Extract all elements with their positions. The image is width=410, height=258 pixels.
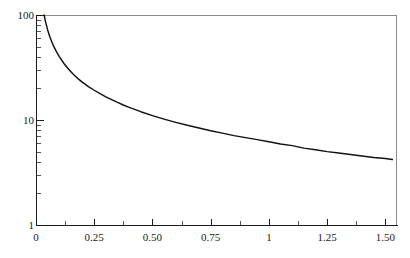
y-tick-label: 100 — [18, 10, 35, 21]
curve-layer — [0, 0, 410, 258]
data-curve — [44, 15, 392, 160]
x-tick-label: 1 — [266, 232, 272, 243]
x-tick-label: 0.50 — [143, 232, 162, 243]
x-tick-label: 0.25 — [85, 232, 104, 243]
chart-figure: 10010100.250.500.7511.251.50 — [0, 0, 410, 258]
x-tick-label: 0.75 — [201, 232, 220, 243]
x-tick-label: 1.50 — [376, 232, 395, 243]
x-tick-label: 1.25 — [318, 232, 337, 243]
x-tick-label: 0 — [33, 232, 39, 243]
y-tick-label: 10 — [23, 115, 34, 126]
y-tick-label: 1 — [29, 220, 35, 231]
